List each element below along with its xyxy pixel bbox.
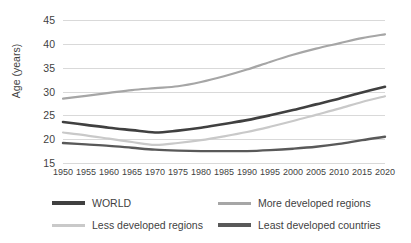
- y-tick-label: 45: [43, 14, 55, 26]
- y-tick-label: 25: [43, 109, 55, 121]
- legend-swatch-icon: [218, 223, 251, 227]
- legend-item-world[interactable]: WORLD: [52, 197, 212, 209]
- legend-label: WORLD: [92, 197, 131, 209]
- legend-swatch-icon: [52, 201, 85, 205]
- plot-area: [63, 20, 385, 163]
- x-tick-label: 1985: [214, 167, 234, 177]
- x-tick-label: 1990: [237, 167, 257, 177]
- y-tick-label: 30: [43, 86, 55, 98]
- legend-swatch-icon: [218, 202, 251, 205]
- series-line-more-developed-regions: [63, 34, 385, 98]
- legend-swatch-icon: [52, 224, 85, 227]
- legend-label: Least developed countries: [258, 219, 381, 231]
- age-trend-line-chart: Age (years) 15202530354045 1950195519601…: [0, 0, 411, 243]
- legend-item-more-developed-regions[interactable]: More developed regions: [212, 197, 400, 209]
- series-line-less-developed-regions: [63, 96, 385, 145]
- x-tick-label: 1980: [191, 167, 211, 177]
- y-tick-label: 20: [43, 133, 55, 145]
- x-tick-label: 1950: [53, 167, 73, 177]
- x-tick-label: 1995: [260, 167, 280, 177]
- series-lines: [63, 20, 385, 163]
- chart-legend: WORLDMore developed regionsLess develope…: [52, 192, 400, 236]
- x-tick-label: 1970: [145, 167, 165, 177]
- x-tick-label: 2015: [352, 167, 372, 177]
- legend-label: More developed regions: [258, 197, 371, 209]
- y-tick-label: 35: [43, 62, 55, 74]
- legend-label: Less developed regions: [92, 219, 203, 231]
- y-tick-label: 40: [43, 38, 55, 50]
- x-tick-label: 1960: [99, 167, 119, 177]
- x-tick-label: 2020: [375, 167, 395, 177]
- x-tick-label: 1965: [122, 167, 142, 177]
- x-tick-label: 2000: [283, 167, 303, 177]
- gridline: [63, 163, 385, 164]
- y-axis-tick-labels: 15202530354045: [0, 0, 63, 183]
- x-tick-label: 1975: [168, 167, 188, 177]
- x-tick-label: 1955: [76, 167, 96, 177]
- x-tick-label: 2005: [306, 167, 326, 177]
- x-tick-label: 2010: [329, 167, 349, 177]
- legend-item-least-developed-countries[interactable]: Least developed countries: [212, 219, 400, 231]
- x-axis-tick-labels: 1950195519601965197019751980198519901995…: [63, 167, 385, 181]
- legend-item-less-developed-regions[interactable]: Less developed regions: [52, 219, 212, 231]
